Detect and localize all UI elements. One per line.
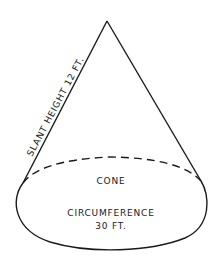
cone-left-edge (23, 21, 107, 183)
slant-height-label: SLANT HEIGHT 12 FT. (25, 55, 86, 158)
circumference-label: CIRCUMFERENCE (67, 208, 154, 218)
circumference-value: 30 FT. (95, 221, 126, 231)
cone-diagram: SLANT HEIGHT 12 FT. CONE CIRCUMFERENCE 3… (0, 0, 219, 260)
cone-name-label: CONE (97, 176, 126, 186)
